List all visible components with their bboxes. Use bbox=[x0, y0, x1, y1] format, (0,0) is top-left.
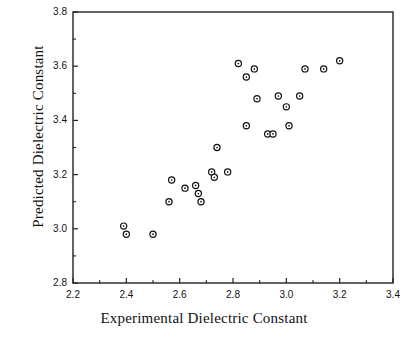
data-point bbox=[121, 223, 127, 229]
data-point bbox=[297, 93, 303, 99]
data-point-center bbox=[168, 201, 170, 203]
data-point-center bbox=[253, 68, 255, 70]
x-axis-tick-label: 3.0 bbox=[273, 289, 299, 300]
data-point bbox=[198, 199, 204, 205]
data-point bbox=[123, 231, 129, 237]
data-point bbox=[214, 144, 220, 150]
data-point bbox=[302, 66, 308, 72]
x-axis-tick-label: 2.6 bbox=[167, 289, 193, 300]
data-point bbox=[169, 177, 175, 183]
data-point-center bbox=[197, 193, 199, 195]
data-point-center bbox=[237, 63, 239, 65]
data-point-center bbox=[277, 95, 279, 97]
data-point bbox=[150, 231, 156, 237]
y-axis-tick-label: 2.8 bbox=[41, 277, 67, 288]
data-point bbox=[225, 169, 231, 175]
data-point-center bbox=[245, 125, 247, 127]
data-point-center bbox=[304, 68, 306, 70]
x-axis-tick-label: 2.8 bbox=[220, 289, 246, 300]
data-point-center bbox=[171, 179, 173, 181]
data-point-center bbox=[227, 171, 229, 173]
data-point bbox=[182, 185, 188, 191]
y-axis-tick-label: 3.6 bbox=[41, 60, 67, 71]
data-point-center bbox=[267, 133, 269, 135]
data-point-center bbox=[123, 225, 125, 227]
data-point-center bbox=[152, 233, 154, 235]
data-point-center bbox=[216, 147, 218, 149]
data-point bbox=[286, 123, 292, 129]
data-point bbox=[195, 190, 201, 196]
data-point bbox=[211, 174, 217, 180]
x-axis-tick-label: 2.4 bbox=[113, 289, 139, 300]
scatter-plot-figure: Predicted Dielectric Constant Experiment… bbox=[0, 0, 408, 337]
data-point-center bbox=[184, 187, 186, 189]
x-axis-tick-label: 2.2 bbox=[60, 289, 86, 300]
y-axis-tick-label: 3.2 bbox=[41, 169, 67, 180]
data-point bbox=[251, 66, 257, 72]
y-axis-tick-label: 3.8 bbox=[41, 6, 67, 17]
data-point bbox=[193, 182, 199, 188]
data-point bbox=[166, 199, 172, 205]
data-point-center bbox=[200, 201, 202, 203]
data-point-center bbox=[256, 98, 258, 100]
data-point-center bbox=[125, 233, 127, 235]
data-point-center bbox=[339, 60, 341, 62]
data-point-center bbox=[245, 76, 247, 78]
data-point bbox=[270, 131, 276, 137]
y-axis-tick-label: 3.4 bbox=[41, 114, 67, 125]
data-point-center bbox=[272, 133, 274, 135]
data-point bbox=[243, 74, 249, 80]
data-point bbox=[243, 123, 249, 129]
data-point bbox=[254, 96, 260, 102]
x-axis-tick-label: 3.2 bbox=[327, 289, 353, 300]
data-point-center bbox=[299, 95, 301, 97]
data-point-center bbox=[195, 185, 197, 187]
x-axis-tick-label: 3.4 bbox=[380, 289, 406, 300]
data-point bbox=[283, 104, 289, 110]
data-point-center bbox=[213, 176, 215, 178]
data-point bbox=[235, 60, 241, 66]
y-axis-tick-label: 3.0 bbox=[41, 223, 67, 234]
data-point-center bbox=[211, 171, 213, 173]
data-point-center bbox=[288, 125, 290, 127]
data-point-center bbox=[285, 106, 287, 108]
data-point bbox=[275, 93, 281, 99]
plot-frame bbox=[73, 12, 393, 283]
data-point bbox=[337, 58, 343, 64]
data-point bbox=[321, 66, 327, 72]
data-point-center bbox=[323, 68, 325, 70]
